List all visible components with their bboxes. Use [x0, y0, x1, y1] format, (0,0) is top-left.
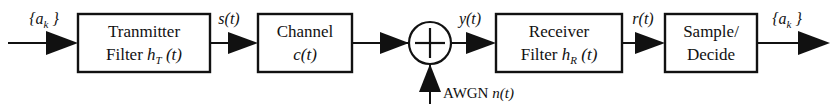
channel-line2: c(t) — [293, 45, 317, 64]
diagram-svg: Tranmitter Filter hT (t) Channel c(t) Re… — [0, 0, 835, 108]
receiver-filter-line1: Receiver — [529, 22, 590, 41]
block-transmitter-filter[interactable]: Tranmitter Filter hT (t) — [78, 14, 210, 72]
block-diagram-canvas: Tranmitter Filter hT (t) Channel c(t) Re… — [0, 0, 835, 108]
block-receiver-filter[interactable]: Receiver Filter hR (t) — [496, 14, 622, 72]
block-sample-decide[interactable]: Sample/ Decide — [665, 14, 757, 72]
receiver-filter-line2: Filter hR (t) — [521, 45, 598, 66]
wire-receiver-to-sampler — [622, 32, 665, 54]
wire-input-to-transmitter — [8, 31, 78, 55]
wire-noise-to-sum — [419, 64, 441, 104]
signal-label-received-signal: y(t) — [457, 10, 481, 28]
wire-channel-to-sum — [352, 32, 409, 54]
sample-decide-line2: Decide — [687, 45, 735, 64]
block-channel[interactable]: Channel c(t) — [258, 14, 352, 72]
awgn-noise-label: AWGN n(t) — [443, 85, 514, 102]
wire-sum-to-receiver — [451, 32, 496, 54]
transmitter-filter-line1: Tranmitter — [108, 22, 180, 41]
signal-label-output-symbols: {ak } — [772, 10, 802, 30]
channel-line1: Channel — [277, 22, 334, 41]
wire-sampler-to-output — [757, 31, 830, 55]
signal-label-input-symbols: {ak } — [29, 10, 59, 30]
transmitter-filter-line2: Filter hT (t) — [106, 45, 182, 66]
wire-transmitter-to-channel — [210, 32, 258, 54]
summing-junction[interactable] — [409, 22, 451, 64]
sample-decide-line1: Sample/ — [683, 22, 739, 41]
signal-label-transmit-signal: s(t) — [218, 10, 239, 28]
signal-label-filtered-signal: r(t) — [632, 10, 653, 28]
